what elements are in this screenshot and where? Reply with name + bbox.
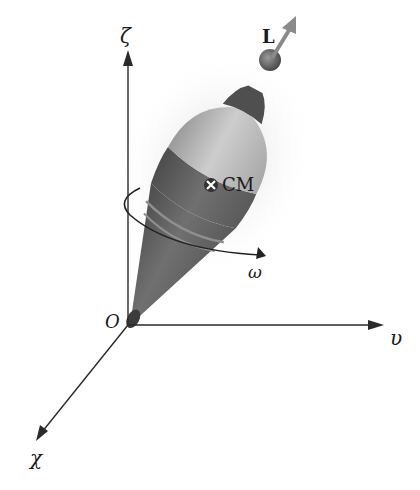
upsilon-axis-label: υ — [390, 328, 402, 348]
center-of-mass-label: CM — [222, 176, 254, 194]
chi-axis-label: χ — [30, 448, 42, 468]
zeta-axis-label: ζ — [120, 26, 131, 46]
angular-velocity-label: ω — [248, 264, 262, 281]
spinning-top-diagram: ζ υ χ O L CM ω — [0, 0, 420, 490]
upsilon-axis-arrowhead — [368, 320, 384, 330]
angular-momentum-label: L — [262, 28, 275, 46]
diagram-graphics — [0, 0, 420, 490]
zeta-axis-arrowhead — [123, 50, 133, 66]
chi-axis — [42, 325, 128, 432]
origin-label: O — [105, 313, 120, 331]
